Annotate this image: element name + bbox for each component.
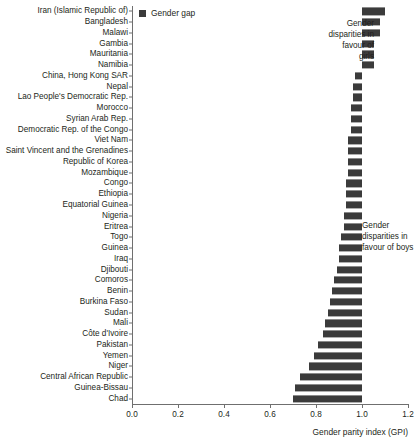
y-axis-tick — [129, 54, 132, 55]
country-label: Eritrea — [104, 222, 128, 230]
y-axis-tick — [129, 323, 132, 324]
y-axis-tick — [129, 387, 132, 388]
y-axis-tick — [129, 129, 132, 130]
y-axis-tick — [129, 151, 132, 152]
y-axis-tick — [129, 215, 132, 216]
bar-row: Comoros — [132, 275, 408, 286]
country-label: Pakistan — [97, 341, 128, 349]
gender-gap-bar — [309, 363, 362, 370]
bar-row: Pakistan — [132, 339, 408, 350]
bar-row: Mozambique — [132, 167, 408, 178]
country-label: Bangladesh — [85, 18, 128, 26]
gender-gap-bar — [362, 8, 385, 15]
y-axis-tick — [129, 140, 132, 141]
annotation-favour-boys: Gender disparities in favour of boys — [362, 220, 418, 253]
x-axis-tick-label: 0.6 — [264, 410, 275, 419]
y-axis-tick — [129, 11, 132, 12]
country-label: Syrian Arab Rep. — [66, 115, 128, 123]
country-label: Chad — [108, 395, 128, 403]
y-axis-tick — [129, 237, 132, 238]
y-axis-tick — [129, 65, 132, 66]
country-label: Central African Republic — [40, 373, 128, 381]
x-axis-tick-label: 0.0 — [126, 410, 137, 419]
bar-row: Yemen — [132, 350, 408, 361]
gender-gap-bar — [339, 244, 362, 251]
country-label: Burkina Faso — [80, 298, 128, 306]
gender-gap-bar — [334, 277, 362, 284]
y-axis-tick — [129, 108, 132, 109]
gender-gap-bar — [346, 201, 362, 208]
gender-gap-bar — [300, 374, 362, 381]
bar-row: Republic of Korea — [132, 157, 408, 168]
y-axis-tick — [129, 86, 132, 87]
gender-gap-bar — [353, 94, 362, 101]
country-label: Mali — [113, 319, 128, 327]
y-axis-tick — [129, 161, 132, 162]
y-axis-tick — [129, 32, 132, 33]
gender-gap-bar — [344, 212, 362, 219]
y-axis-tick — [129, 22, 132, 23]
country-label: Nigeria — [102, 212, 128, 220]
x-axis-tick-label: 1.2 — [402, 410, 413, 419]
x-axis-tick — [362, 404, 363, 408]
gender-gap-bar — [348, 169, 362, 176]
bar-row: Iran (Islamic Republic of) — [132, 6, 408, 17]
y-axis-tick — [129, 43, 132, 44]
bar-row: Morocco — [132, 103, 408, 114]
country-label: Iran (Islamic Republic of) — [37, 7, 128, 15]
bar-row: Ethiopia — [132, 189, 408, 200]
bar-row: Congo — [132, 178, 408, 189]
gender-gap-bar — [351, 126, 363, 133]
country-label: Sudan — [104, 308, 128, 316]
country-label: China, Hong Kong SAR — [42, 72, 128, 80]
y-axis-tick — [129, 355, 132, 356]
x-axis-tick — [132, 404, 133, 408]
country-label: Togo — [110, 233, 128, 241]
annotation-favour-girls: Gender disparities in favour of girls — [328, 18, 374, 62]
bar-row: Central African Republic — [132, 372, 408, 383]
bar-row: Saint Vincent and the Grenadines — [132, 146, 408, 157]
gender-gap-bar — [344, 223, 362, 230]
gender-gap-bar — [351, 115, 363, 122]
bar-row: Côte d'Ivoire — [132, 329, 408, 340]
country-label: Mozambique — [81, 169, 128, 177]
country-label: Comoros — [95, 276, 128, 284]
gender-gap-bar — [346, 191, 362, 198]
gender-gap-bar — [295, 384, 362, 391]
y-axis-tick — [129, 312, 132, 313]
gender-gap-bar — [355, 72, 362, 79]
gender-gap-bar — [351, 105, 363, 112]
gender-gap-bar — [332, 287, 362, 294]
bar-row: China, Hong Kong SAR — [132, 71, 408, 82]
x-axis-tick — [316, 404, 317, 408]
y-axis-tick — [129, 194, 132, 195]
country-label: Benin — [107, 287, 128, 295]
y-axis-tick — [129, 258, 132, 259]
country-label: Ethiopia — [98, 190, 128, 198]
y-axis-tick — [129, 301, 132, 302]
country-label: Iraq — [114, 255, 128, 263]
bar-row: Democratic Rep. of the Congo — [132, 124, 408, 135]
y-axis-tick — [129, 172, 132, 173]
gender-gap-bar — [348, 137, 362, 144]
gender-gap-bar — [293, 395, 362, 402]
bar-row: Mali — [132, 318, 408, 329]
country-label: Republic of Korea — [63, 158, 128, 166]
country-label: Yemen — [103, 351, 128, 359]
y-axis-tick — [129, 204, 132, 205]
country-label: Gambia — [99, 40, 128, 48]
gender-gap-bar — [339, 255, 362, 262]
gender-gap-bar — [325, 320, 362, 327]
bar-row: Benin — [132, 286, 408, 297]
gender-gap-bar — [346, 180, 362, 187]
y-axis-tick — [129, 226, 132, 227]
gender-gap-bar — [353, 83, 362, 90]
bar-row: Sudan — [132, 307, 408, 318]
country-label: Malawi — [103, 29, 128, 37]
country-label: Morocco — [97, 104, 128, 112]
country-label: Lao People's Democratic Rep. — [18, 93, 128, 101]
country-label: Guinea — [102, 244, 128, 252]
y-axis-tick — [129, 291, 132, 292]
x-axis-tick-label: 0.8 — [310, 410, 321, 419]
country-label: Niger — [108, 362, 128, 370]
